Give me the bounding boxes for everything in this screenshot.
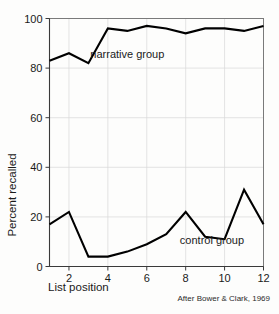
figure-container: 020406080100 24681012 narrative groupcon… [0,0,279,314]
y-tick-label: 40 [30,161,42,173]
y-axis-tick-labels: 020406080100 [24,13,42,273]
series-annotation-control-group: control group [180,234,244,246]
chart-canvas: 020406080100 24681012 narrative groupcon… [0,0,279,314]
y-axis-title: Percent recalled [6,153,18,236]
x-tick-label: 6 [144,272,150,284]
x-axis-title: List position [48,281,109,293]
series-line-control-group [50,190,264,257]
series-annotation-narrative-group: narrative group [90,48,164,60]
series-annotations: narrative groupcontrol group [90,48,244,246]
data-series [50,26,264,257]
x-tick-label: 12 [257,272,269,284]
y-tick-label: 80 [30,62,42,74]
x-tick-label: 8 [183,272,189,284]
y-tick-label: 20 [30,211,42,223]
x-tick-label: 10 [218,272,230,284]
attribution-caption: After Bower & Clark, 1969 [178,294,271,303]
y-tick-label: 0 [36,261,42,273]
y-tick-label: 60 [30,112,42,124]
y-tick-label: 100 [24,13,42,25]
